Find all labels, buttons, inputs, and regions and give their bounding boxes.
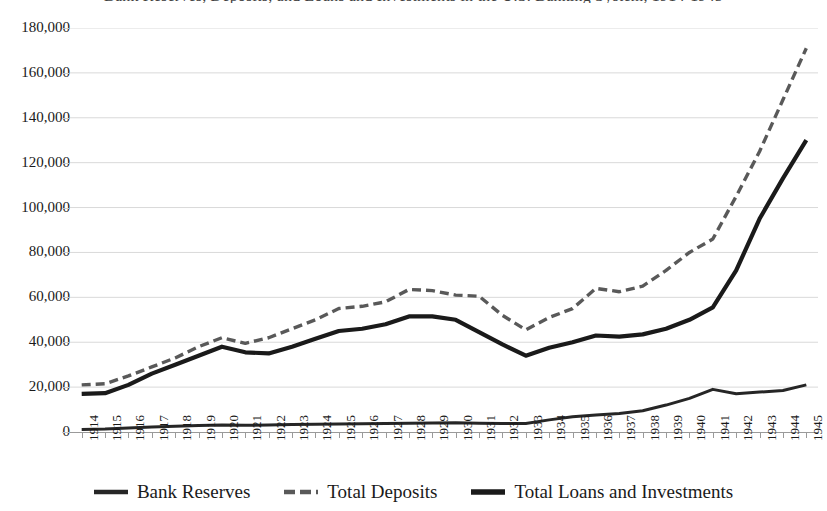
x-axis-tick-mark <box>105 433 106 438</box>
y-axis-tick-mark <box>62 297 69 298</box>
x-axis-tick-label: 1924 <box>320 415 333 441</box>
x-axis-tick-label: 1941 <box>718 415 731 441</box>
x-axis-tick-mark <box>456 433 457 438</box>
x-axis-tick-mark <box>175 433 176 438</box>
x-axis-tick-mark <box>526 433 527 438</box>
x-axis-tick-label: 1943 <box>765 415 778 441</box>
y-axis-tick-mark <box>62 73 69 74</box>
x-axis-tick-label: 1919 <box>204 415 217 441</box>
x-axis-tick-mark <box>315 433 316 438</box>
legend-swatch-icon <box>284 486 318 498</box>
series-line <box>82 48 807 385</box>
legend-swatch-icon <box>471 486 505 498</box>
x-axis-tick-mark <box>128 433 129 438</box>
x-axis-tick-mark <box>386 433 387 438</box>
x-axis-tick-mark <box>619 433 620 438</box>
x-axis-tick-label: 1934 <box>554 415 567 441</box>
x-axis-tick-mark <box>596 433 597 438</box>
chart-legend: Bank ReservesTotal DepositsTotal Loans a… <box>0 482 827 501</box>
x-axis-tick-mark <box>409 433 410 438</box>
y-axis-tick-label: 60,000 <box>0 289 70 304</box>
plot-canvas <box>70 28 818 432</box>
x-axis-tick-mark <box>760 433 761 438</box>
series-line <box>82 140 807 394</box>
x-axis-tick-mark <box>292 433 293 438</box>
y-axis-tick-mark <box>62 163 69 164</box>
x-axis-tick-mark <box>783 433 784 438</box>
series-canvas <box>70 28 818 434</box>
x-axis-tick-mark <box>689 433 690 438</box>
x-axis-tick-mark <box>432 433 433 438</box>
x-axis-tick-label: 1945 <box>811 415 824 441</box>
x-axis-tick-mark <box>736 433 737 438</box>
x-axis-tick-mark <box>152 433 153 438</box>
x-axis-tick-mark <box>549 433 550 438</box>
x-axis-tick-label: 1940 <box>694 415 707 441</box>
x-axis-tick-mark <box>666 433 667 438</box>
x-axis-tick-label: 1914 <box>87 415 100 441</box>
legend-label: Total Deposits <box>327 482 437 501</box>
x-axis-tick-label: 1933 <box>531 415 544 441</box>
x-axis-tick-label: 1930 <box>461 415 474 441</box>
y-axis-tick-mark <box>62 208 69 209</box>
y-axis-tick-mark <box>62 342 69 343</box>
x-axis-tick-mark <box>806 433 807 438</box>
x-axis-tick-label: 1931 <box>484 415 497 441</box>
x-axis-tick-label: 1929 <box>437 415 450 441</box>
line-chart: Bank Reserves, Deposits, and Loans and I… <box>0 0 827 511</box>
x-axis-tick-label: 1935 <box>578 415 591 441</box>
x-axis-tick-label: 1923 <box>297 415 310 441</box>
y-axis-tick-label: 120,000 <box>0 155 70 170</box>
x-axis-tick-label: 1926 <box>367 415 380 441</box>
x-axis-tick-mark <box>502 433 503 438</box>
x-axis-tick-label: 1927 <box>391 415 404 441</box>
y-axis-tick-label: 80,000 <box>0 244 70 259</box>
x-axis-tick-label: 1922 <box>274 415 287 441</box>
x-axis-tick-mark <box>82 433 83 438</box>
x-axis-tick-label: 1928 <box>414 415 427 441</box>
y-axis-tick-label: 160,000 <box>0 65 70 80</box>
y-axis-tick-label: 100,000 <box>0 200 70 215</box>
x-axis-tick-label: 1942 <box>741 415 754 441</box>
y-axis-tick-label: 140,000 <box>0 110 70 125</box>
x-axis-tick-mark <box>479 433 480 438</box>
y-axis-tick-label: 0 <box>0 424 70 439</box>
y-axis-tick-label: 20,000 <box>0 379 70 394</box>
x-axis-tick-mark <box>245 433 246 438</box>
chart-title: Bank Reserves, Deposits, and Loans and I… <box>0 0 827 3</box>
y-axis-tick-mark <box>62 118 69 119</box>
x-axis-tick-mark <box>643 433 644 438</box>
x-axis-tick-label: 1944 <box>788 415 801 441</box>
x-axis-tick-mark <box>713 433 714 438</box>
legend-label: Total Loans and Investments <box>514 482 733 501</box>
x-axis-tick-label: 1937 <box>624 415 637 441</box>
y-axis-tick-mark <box>62 432 69 433</box>
x-axis-tick-label: 1917 <box>157 415 170 441</box>
x-axis-tick-label: 1932 <box>507 415 520 441</box>
x-axis-tick-mark <box>199 433 200 438</box>
x-axis-tick-label: 1939 <box>671 415 684 441</box>
x-axis-tick-mark <box>269 433 270 438</box>
x-axis-tick-mark <box>339 433 340 438</box>
x-axis-tick-label: 1915 <box>110 415 123 441</box>
legend-swatch-icon <box>94 486 128 498</box>
x-axis-tick-label: 1921 <box>250 415 263 441</box>
x-axis-tick-mark <box>362 433 363 438</box>
x-axis-tick-label: 1936 <box>601 415 614 441</box>
x-axis-tick-mark <box>573 433 574 438</box>
legend-item[interactable]: Total Loans and Investments <box>471 482 733 501</box>
y-axis-tick-mark <box>62 387 69 388</box>
x-axis-tick-label: 1925 <box>344 415 357 441</box>
legend-item[interactable]: Bank Reserves <box>94 482 250 501</box>
y-axis-tick-mark <box>62 252 69 253</box>
x-axis-tick-label: 1918 <box>180 415 193 441</box>
legend-label: Bank Reserves <box>137 482 250 501</box>
x-axis-tick-label: 1938 <box>648 415 661 441</box>
y-axis-tick-label: 40,000 <box>0 334 70 349</box>
legend-item[interactable]: Total Deposits <box>284 482 437 501</box>
y-axis-tick-label: 180,000 <box>0 20 70 35</box>
y-axis-tick-mark <box>62 28 69 29</box>
x-axis-tick-label: 1916 <box>133 415 146 441</box>
x-axis-tick-label: 1920 <box>227 415 240 441</box>
x-axis-tick-mark <box>222 433 223 438</box>
